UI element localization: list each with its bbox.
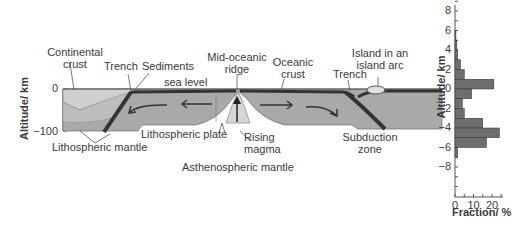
histogram-bar: [455, 79, 494, 89]
histogram-bar: [455, 70, 464, 80]
histogram-bar: [455, 99, 462, 109]
histogram-bar: [455, 138, 486, 148]
histogram-bar: [455, 60, 461, 70]
histogram-y-tick: 6: [425, 24, 451, 36]
histogram-bar: [455, 128, 499, 138]
histogram-y-tick: −4: [425, 121, 451, 133]
histogram-x-axis-title: Fraction/ %: [452, 206, 511, 218]
histogram-bar: [455, 118, 483, 128]
histogram-bar: [455, 50, 458, 60]
histogram-bar: [455, 89, 472, 99]
histogram-y-tick: −8: [425, 160, 451, 172]
histogram-bar: [455, 31, 456, 41]
histogram-y-tick: 2: [425, 63, 451, 75]
histogram-y-tick: −2: [425, 102, 451, 114]
histogram-y-tick: −6: [425, 141, 451, 153]
histogram-bar: [455, 109, 464, 119]
histogram-y-tick: 8: [425, 4, 451, 16]
histogram-bar: [455, 148, 458, 158]
histogram-bar: [455, 40, 457, 50]
histogram-y-tick: 0: [425, 82, 451, 94]
histogram-y-tick: 4: [425, 43, 451, 55]
